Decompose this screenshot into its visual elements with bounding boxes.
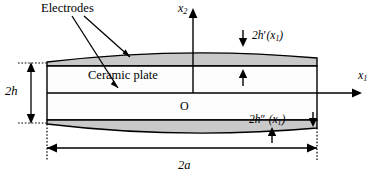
thickness-arrow-bottom [27, 114, 35, 124]
thickness-arrow-top [27, 62, 35, 72]
x2-axis-label-subscript: 2 [183, 7, 187, 16]
lower-electrode-argument-close: ) [282, 113, 286, 125]
x2-axis-arrowhead [189, 8, 198, 18]
upper-electrode-thickness-label: 2h′(x1) [252, 30, 283, 43]
lower-electrode-thickness-label: 2h″ (x1) [249, 114, 285, 127]
x2-axis-label: x2 [178, 2, 187, 16]
ceramic-plate-label: Ceramic plate [88, 69, 158, 82]
upper-electrode [47, 53, 317, 66]
upper-electrode-symbol: 2h [252, 29, 264, 41]
origin-label: O [180, 100, 189, 112]
lower-electrode-symbol: 2h [249, 113, 261, 125]
width-label: 2a [178, 159, 191, 172]
width-arrow-right [307, 144, 317, 153]
ceramic-plate-diagram: Electrodes Ceramic plate x2 x1 O 2h 2a 2… [0, 0, 388, 180]
lower-electrode-prime: ″ [261, 113, 266, 125]
thickness-label: 2h [5, 85, 18, 98]
lower-electrode-argument: (x [269, 113, 278, 125]
diagram-canvas [0, 0, 388, 180]
upper-electrode-arrow-down-head [239, 38, 247, 47]
x1-axis-arrowhead [352, 89, 362, 98]
x1-axis-label-subscript: 1 [363, 74, 367, 83]
electrodes-label: Electrodes [41, 2, 94, 15]
electrode-leader-upper [84, 16, 130, 57]
upper-electrode-argument-close: ) [279, 29, 283, 41]
x1-axis-label: x1 [358, 69, 367, 83]
width-arrow-left [47, 144, 57, 153]
